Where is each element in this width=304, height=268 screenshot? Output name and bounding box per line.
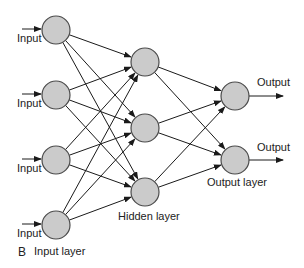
hidden-output-edge-1-2 [154, 72, 224, 149]
output-label-2: Output [257, 142, 290, 153]
input-node-2 [42, 81, 70, 109]
hidden-node-2 [131, 114, 159, 142]
input-label-3: Input [17, 163, 41, 174]
hidden-layer-label: Hidden layer [118, 211, 180, 222]
hidden-node-1 [131, 48, 159, 76]
input-node-3 [42, 146, 70, 174]
output-node-1 [221, 82, 249, 110]
input-hidden-edge-1-1 [69, 35, 131, 57]
input-label-1: Input [17, 33, 41, 44]
input-layer-label: Input layer [34, 246, 85, 257]
input-node-4 [42, 211, 70, 239]
hidden-output-edge-3-1 [155, 107, 225, 182]
network-graph [0, 0, 304, 268]
hidden-output-edge-2-1 [158, 101, 221, 123]
input-hidden-edge-4-1 [63, 75, 138, 213]
hidden-node-3 [131, 178, 159, 206]
output-node-2 [221, 146, 249, 174]
input-label-4: Input [17, 228, 41, 239]
figure-letter: B [18, 246, 26, 258]
input-label-2: Input [17, 98, 41, 109]
output-label-1: Output [257, 77, 290, 88]
input-hidden-edge-3-1 [65, 73, 135, 150]
input-node-1 [42, 16, 70, 44]
output-layer-label: Output layer [207, 177, 267, 188]
input-hidden-edge-4-2 [65, 139, 134, 215]
neural-network-diagram: Input Input Input Input Output Output B … [0, 0, 304, 268]
